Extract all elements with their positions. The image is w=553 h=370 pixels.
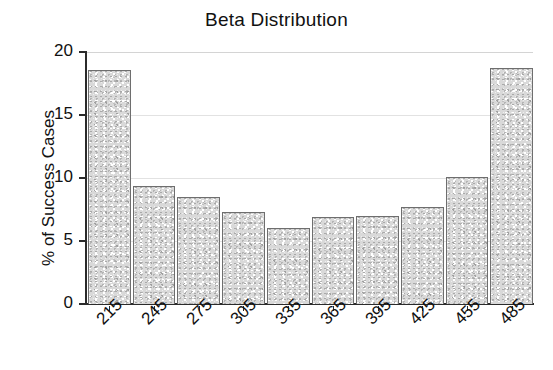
bar — [356, 216, 399, 304]
y-tick-label: 10 — [33, 167, 73, 187]
bar — [401, 207, 444, 304]
y-axis-label: % of Success Cases — [39, 63, 59, 313]
x-tick: 215 — [88, 306, 131, 366]
x-tick: 485 — [490, 306, 533, 366]
y-tick-mark — [79, 240, 87, 242]
chart-figure: Beta Distribution % of Success Cases 051… — [0, 0, 553, 370]
y-tick-mark — [79, 303, 87, 305]
bar — [312, 217, 355, 304]
x-tick: 365 — [312, 306, 355, 366]
bar — [446, 177, 489, 304]
chart-title: Beta Distribution — [0, 9, 553, 31]
y-tick-label: 20 — [33, 41, 73, 61]
y-tick-label: 15 — [33, 104, 73, 124]
y-tick-label: 0 — [33, 293, 73, 313]
bar — [267, 228, 310, 304]
bar-series — [88, 52, 533, 304]
x-tick: 335 — [267, 306, 310, 366]
y-tick-mark — [79, 114, 87, 116]
bar — [133, 186, 176, 304]
x-tick: 425 — [401, 306, 444, 366]
x-tick: 245 — [133, 306, 176, 366]
x-tick: 455 — [446, 306, 489, 366]
plot-area: 05101520 — [86, 52, 533, 304]
bar — [222, 212, 265, 304]
x-tick: 305 — [222, 306, 265, 366]
y-tick-label: 5 — [33, 230, 73, 250]
y-tick-mark — [79, 177, 87, 179]
x-tick: 395 — [356, 306, 399, 366]
bar — [490, 68, 533, 304]
y-tick-mark — [79, 51, 87, 53]
bar — [177, 197, 220, 304]
x-tick: 275 — [177, 306, 220, 366]
x-axis-ticks: 215245275305335365395425455485 — [88, 306, 533, 366]
bar — [88, 70, 131, 304]
